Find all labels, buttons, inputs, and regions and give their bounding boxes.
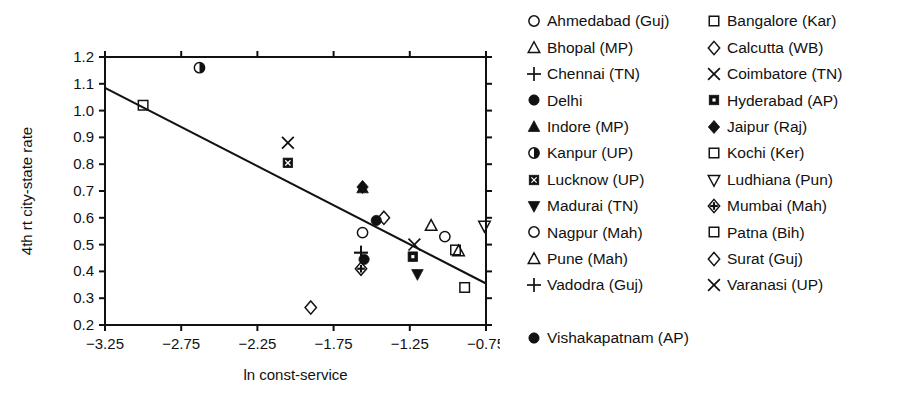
- x-axis-title: ln const-service: [243, 366, 347, 383]
- legend-item-label: Indore (MP): [547, 119, 629, 135]
- y-tick-label: 0.2: [73, 316, 94, 333]
- legend-item-label: Pune (Mah): [547, 251, 628, 267]
- x-tick-label: −1.75: [315, 335, 353, 352]
- legend-item: Coimbatore (TN): [701, 61, 901, 87]
- legend-item-label: Delhi: [547, 93, 582, 109]
- legend-item: Nagpur (Mah): [521, 219, 716, 245]
- legend-item: Pune (Mah): [521, 246, 716, 272]
- triangle-up-open-icon: [521, 246, 547, 272]
- legend-column-right: Bangalore (Kar)Calcutta (WB)Coimbatore (…: [701, 8, 901, 298]
- y-tick-label: 0.5: [73, 236, 94, 253]
- y-tick-label: 0.3: [73, 289, 94, 306]
- triangle-down-open-icon: [701, 167, 727, 193]
- legend-row-last: Vishakapatnam (AP): [521, 325, 689, 351]
- y-tick-label: 0.9: [73, 128, 94, 145]
- circle-filled-icon: [521, 87, 547, 113]
- plus-icon: [521, 272, 547, 298]
- y-tick-label: 1.0: [73, 102, 94, 119]
- plot-svg: 0.20.30.40.50.60.70.80.91.01.11.2−3.25−2…: [0, 0, 500, 401]
- data-point: Ludhiana (Pun) (-0.76, 0.57): [479, 221, 491, 232]
- legend-item-label: Nagpur (Mah): [547, 225, 643, 241]
- legend-item-label: Ludhiana (Pun): [727, 172, 833, 188]
- diamond-open-icon: [701, 35, 727, 61]
- data-point: Nagpur (Mah) (-1.56, 0.545): [357, 227, 367, 237]
- legend-item-label: Madurai (TN): [547, 198, 638, 214]
- y-tick-label: 0.6: [73, 209, 94, 226]
- legend-item: Kochi (Ker): [701, 140, 901, 166]
- legend-item-label: Hyderabad (AP): [727, 93, 838, 109]
- legend-item: Delhi: [521, 87, 716, 113]
- legend-item: Chennai (TN): [521, 61, 716, 87]
- square-open-icon: [701, 8, 727, 34]
- legend-item: Varanasi (UP): [701, 272, 901, 298]
- legend-item: Lucknow (UP): [521, 166, 716, 192]
- data-point: Kanpur (UP) (-2.63, 1.16): [194, 63, 204, 73]
- diamond-cross-icon: [701, 193, 727, 219]
- y-axis-title: 4th rt city-state rate: [18, 127, 35, 255]
- legend-item-label: Varanasi (UP): [727, 277, 823, 293]
- circle-open-icon: [521, 8, 547, 34]
- data-point: Madurai (TN) (-1.2, 0.39): [412, 270, 424, 281]
- legend-item: Calcutta (WB): [701, 34, 901, 60]
- x-tick-label: −2.75: [162, 335, 200, 352]
- data-point: Hyderabad (AP) (-1.23, 0.455): [408, 252, 418, 262]
- plot-area: 0.20.30.40.50.60.70.80.91.01.11.2−3.25−2…: [0, 0, 500, 401]
- triangle-up-open-icon: [521, 35, 547, 61]
- legend-item-label: Mumbai (Mah): [727, 198, 827, 214]
- square-dot-filled-icon: [701, 87, 727, 113]
- legend-item: Jaipur (Raj): [701, 114, 901, 140]
- x-mark-icon: [701, 61, 727, 87]
- y-tick-label: 0.8: [73, 155, 94, 172]
- legend-item: Hyderabad (AP): [701, 87, 901, 113]
- legend-item: Bhopal (MP): [521, 34, 716, 60]
- legend-item: Vadodra (Guj): [521, 272, 716, 298]
- square-open-icon: [701, 219, 727, 245]
- legend-item-label: Calcutta (WB): [727, 40, 823, 56]
- triangle-up-filled-icon: [521, 114, 547, 140]
- legend-item-label: Vadodra (Guj): [547, 277, 643, 293]
- legend-item-label: Patna (Bih): [727, 225, 805, 241]
- legend-item-label: Bangalore (Kar): [727, 13, 836, 29]
- legend-item-label: Vishakapatnam (AP): [547, 330, 689, 346]
- legend-item-label: Coimbatore (TN): [727, 66, 842, 82]
- legend-column-left: Ahmedabad (Guj)Bhopal (MP)Chennai (TN)De…: [521, 8, 716, 298]
- regression-line: [105, 88, 486, 284]
- legend-item-label: Kochi (Ker): [727, 145, 805, 161]
- scatter-plot-figure: 0.20.30.40.50.60.70.80.91.01.11.2−3.25−2…: [0, 0, 912, 401]
- legend-item: Patna (Bih): [701, 219, 901, 245]
- data-point: Patna (Bih) (-0.89, 0.34): [460, 283, 470, 293]
- square-open-icon: [701, 140, 727, 166]
- legend-item: Vishakapatnam (AP): [521, 325, 689, 351]
- legend-item: Mumbai (Mah): [701, 193, 901, 219]
- legend-item: Madurai (TN): [521, 193, 716, 219]
- data-point: Ahmedabad (Guj) (-1.02, 0.53): [440, 231, 450, 241]
- x-tick-label: −2.25: [238, 335, 276, 352]
- circle-filled-icon: [521, 325, 547, 351]
- legend-item-label: Lucknow (UP): [547, 172, 644, 188]
- legend-item-label: Ahmedabad (Guj): [547, 13, 669, 29]
- legend-item-label: Surat (Guj): [727, 251, 803, 267]
- triangle-down-filled-icon: [521, 193, 547, 219]
- y-tick-label: 1.2: [73, 48, 94, 65]
- legend-item-label: Chennai (TN): [547, 66, 640, 82]
- data-point: Bhopal (MP) (-1.11, 0.57): [425, 220, 437, 231]
- legend-item-label: Jaipur (Raj): [727, 119, 807, 135]
- legend: Ahmedabad (Guj)Bhopal (MP)Chennai (TN)De…: [505, 8, 910, 338]
- y-tick-label: 0.4: [73, 262, 94, 279]
- data-point: Lucknow (UP) (-2.05, 0.805): [283, 158, 293, 168]
- x-tick-label: −0.75: [467, 335, 500, 352]
- circle-half-icon: [521, 140, 547, 166]
- plus-icon: [521, 61, 547, 87]
- x-tick-label: −1.25: [391, 335, 429, 352]
- x-mark-icon: [701, 272, 727, 298]
- data-point: Calcutta (WB) (-1.9, 0.265): [305, 301, 316, 314]
- circle-open-icon: [521, 219, 547, 245]
- data-point: Coimbatore (TN) (-2.05, 0.88): [282, 137, 294, 149]
- legend-item: Indore (MP): [521, 114, 716, 140]
- legend-item-label: Bhopal (MP): [547, 40, 633, 56]
- diamond-open-icon: [701, 246, 727, 272]
- legend-item-label: Kanpur (UP): [547, 145, 633, 161]
- y-tick-label: 0.7: [73, 182, 94, 199]
- x-tick-label: −3.25: [86, 335, 124, 352]
- legend-item: Surat (Guj): [701, 246, 901, 272]
